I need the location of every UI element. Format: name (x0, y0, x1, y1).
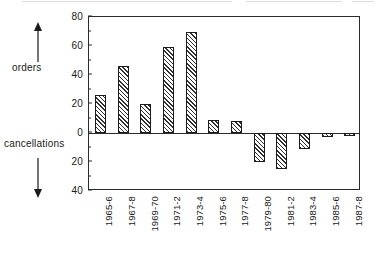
x-axis-tick-label: 1973-4 (194, 196, 205, 226)
bar (276, 133, 287, 169)
bar (140, 104, 151, 133)
x-axis-tick-label: 1987-8 (353, 196, 364, 226)
y-axis-tick-mark (88, 16, 92, 17)
bar (208, 120, 219, 133)
y-axis-tick-label: 20 (71, 98, 83, 109)
y-axis-minor-tick (88, 59, 91, 60)
bar (322, 133, 333, 137)
y-axis-minor-tick (88, 117, 91, 118)
bar (186, 32, 197, 134)
x-axis-tick-label: 1971-2 (171, 196, 182, 226)
y-axis-tick-mark (88, 103, 92, 104)
x-axis-tick-label: 1967-8 (126, 196, 137, 226)
x-axis-tick-label: 1969-70 (149, 196, 160, 232)
cancellations-axis-label: cancellations (4, 138, 64, 149)
arrow-down-icon (32, 158, 44, 198)
y-axis-tick-label: 40 (71, 185, 83, 196)
y-axis-tick-label: 20 (71, 156, 83, 167)
y-axis-tick-mark (88, 161, 92, 162)
arrow-up-icon (32, 22, 44, 62)
y-axis-tick-label: 60 (71, 40, 83, 51)
x-axis-tick-label: 1977-8 (239, 196, 250, 226)
y-axis-tick-label: 0 (77, 127, 83, 138)
chart-container: 8060402002040 orders cancellations 1965-… (0, 0, 388, 258)
y-axis-minor-tick (88, 146, 91, 147)
bar (118, 66, 129, 133)
orders-axis-label: orders (12, 62, 42, 73)
x-axis-tick-label: 1979-80 (262, 196, 273, 232)
bar (254, 133, 265, 162)
y-axis-minor-tick (88, 88, 91, 89)
bar (163, 47, 174, 133)
y-axis-tick-mark (88, 74, 92, 75)
x-axis-tick-label: 1975-6 (217, 196, 228, 226)
x-axis-tick-label: 1983-4 (307, 196, 318, 226)
y-axis-tick-mark (88, 190, 92, 191)
y-axis-tick-mark (88, 132, 92, 133)
x-axis-tick-label: 1985-6 (330, 196, 341, 226)
plot-area (88, 16, 360, 190)
bar (231, 121, 242, 133)
bar (95, 95, 106, 133)
x-axis-tick-label: 1981-2 (285, 196, 296, 226)
y-axis-tick-labels: 8060402002040 (50, 0, 83, 258)
bar (299, 133, 310, 149)
y-axis-tick-label: 80 (71, 11, 83, 22)
y-axis-minor-tick (88, 30, 91, 31)
zero-baseline (89, 133, 359, 134)
y-axis-tick-mark (88, 45, 92, 46)
x-axis-tick-label: 1965-6 (103, 196, 114, 226)
y-axis-minor-tick (88, 175, 91, 176)
y-axis-tick-label: 40 (71, 69, 83, 80)
bar (344, 133, 355, 136)
